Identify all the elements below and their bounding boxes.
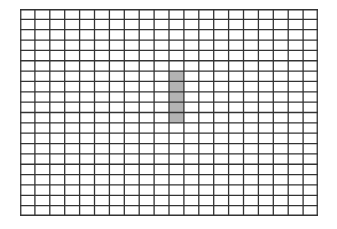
grid-canvas bbox=[20, 9, 318, 216]
highlighted-cells bbox=[169, 71, 184, 123]
grid bbox=[20, 9, 318, 216]
